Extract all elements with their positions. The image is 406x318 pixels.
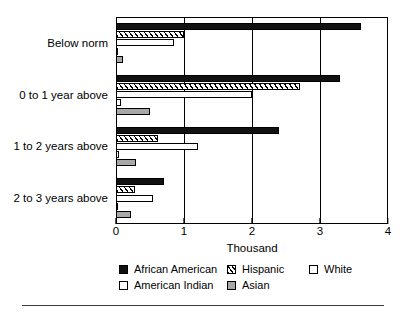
legend-swatch-open-icon bbox=[309, 265, 318, 274]
x-tick-label: 0 bbox=[113, 224, 119, 238]
bar bbox=[116, 31, 184, 38]
legend-item-label: Asian bbox=[242, 279, 270, 292]
bar bbox=[116, 83, 300, 90]
bar bbox=[116, 56, 123, 63]
bar-group bbox=[116, 17, 388, 69]
bar bbox=[116, 48, 118, 55]
bar bbox=[116, 135, 158, 142]
bar-group bbox=[116, 172, 388, 224]
legend-swatch-solid-black-icon bbox=[119, 265, 128, 274]
y-axis-tick-label: 1 to 2 years above bbox=[13, 140, 108, 153]
legend-item: White bbox=[309, 263, 391, 276]
bar-group bbox=[116, 69, 388, 121]
legend-item-label: White bbox=[324, 263, 352, 276]
plot-area bbox=[116, 17, 388, 224]
legend-item-label: Hispanic bbox=[242, 263, 284, 276]
legend-item: American Indian bbox=[119, 279, 227, 292]
legend-item-label: American Indian bbox=[134, 279, 214, 292]
bar bbox=[116, 203, 118, 210]
y-axis-tick-label: 0 to 1 year above bbox=[19, 88, 108, 101]
x-tick-label: 1 bbox=[181, 224, 187, 238]
legend-item: African American bbox=[119, 263, 227, 276]
x-tick-label: 3 bbox=[317, 224, 323, 238]
bar bbox=[116, 143, 198, 150]
bar bbox=[116, 91, 252, 98]
bar bbox=[116, 211, 131, 218]
x-tick-label: 4 bbox=[385, 224, 391, 238]
x-tick-label: 2 bbox=[249, 224, 255, 238]
bottom-divider bbox=[22, 305, 384, 306]
chart-legend: African AmericanHispanicWhiteAmerican In… bbox=[119, 261, 397, 293]
y-axis-tick-label: 2 to 3 years above bbox=[13, 192, 108, 205]
y-axis-tick-label: Below norm bbox=[47, 36, 108, 49]
bar bbox=[116, 127, 279, 134]
bar bbox=[116, 151, 119, 158]
x-axis-title: Thousand bbox=[116, 241, 388, 255]
bar bbox=[116, 159, 136, 166]
x-axis-ticks: 0 1 2 3 4 bbox=[116, 224, 388, 240]
y-axis-category-labels: Below norm 0 to 1 year above 1 to 2 year… bbox=[0, 17, 112, 224]
bar bbox=[116, 195, 153, 202]
legend-item: Asian bbox=[227, 279, 309, 292]
bar-chart-figure: Below norm 0 to 1 year above 1 to 2 year… bbox=[0, 0, 406, 318]
bar bbox=[116, 108, 150, 115]
legend-item-label: African American bbox=[134, 263, 217, 276]
legend-item: Hispanic bbox=[227, 263, 309, 276]
bar-group bbox=[116, 121, 388, 173]
bar bbox=[116, 178, 164, 185]
bar bbox=[116, 23, 361, 30]
bar bbox=[116, 39, 174, 46]
legend-swatch-gray-icon bbox=[227, 281, 236, 290]
legend-swatch-open-icon bbox=[119, 281, 128, 290]
bar bbox=[116, 186, 135, 193]
bars-container bbox=[116, 17, 388, 224]
legend-swatch-hatched-icon bbox=[227, 265, 236, 274]
bar bbox=[116, 99, 121, 106]
bar bbox=[116, 75, 340, 82]
